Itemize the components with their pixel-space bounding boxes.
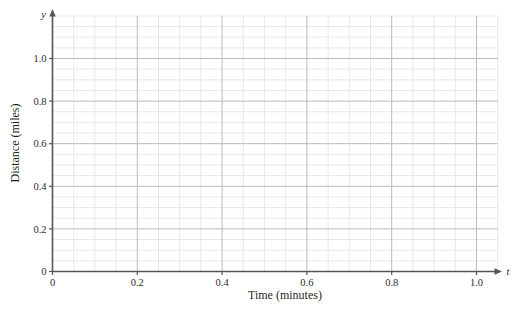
x-tick-label: 0.2	[131, 277, 144, 288]
y-tick-label: 0.8	[33, 96, 46, 107]
x-tick-label: 0.4	[216, 277, 230, 288]
y-tick-label: 0	[41, 266, 46, 277]
x-tick-label: 0.8	[385, 277, 398, 288]
y-axis-title: Distance (miles)	[8, 104, 22, 183]
y-axis-variable-label: y	[40, 9, 46, 20]
x-axis-title: Time (minutes)	[248, 288, 322, 302]
chart-container: 00.20.40.60.81.0 00.20.40.60.81.0 y t Ti…	[0, 0, 524, 321]
x-tick-label: 0	[50, 277, 55, 288]
x-tick-label: 1.0	[470, 277, 483, 288]
y-tick-label: 0.4	[33, 181, 47, 192]
coordinate-grid-plot: 00.20.40.60.81.0 00.20.40.60.81.0 y t Ti…	[0, 0, 524, 321]
y-tick-label: 0.6	[33, 138, 46, 149]
x-tick-label: 0.6	[300, 277, 313, 288]
y-tick-label: 1.0	[33, 53, 46, 64]
y-tick-label: 0.2	[33, 224, 46, 235]
